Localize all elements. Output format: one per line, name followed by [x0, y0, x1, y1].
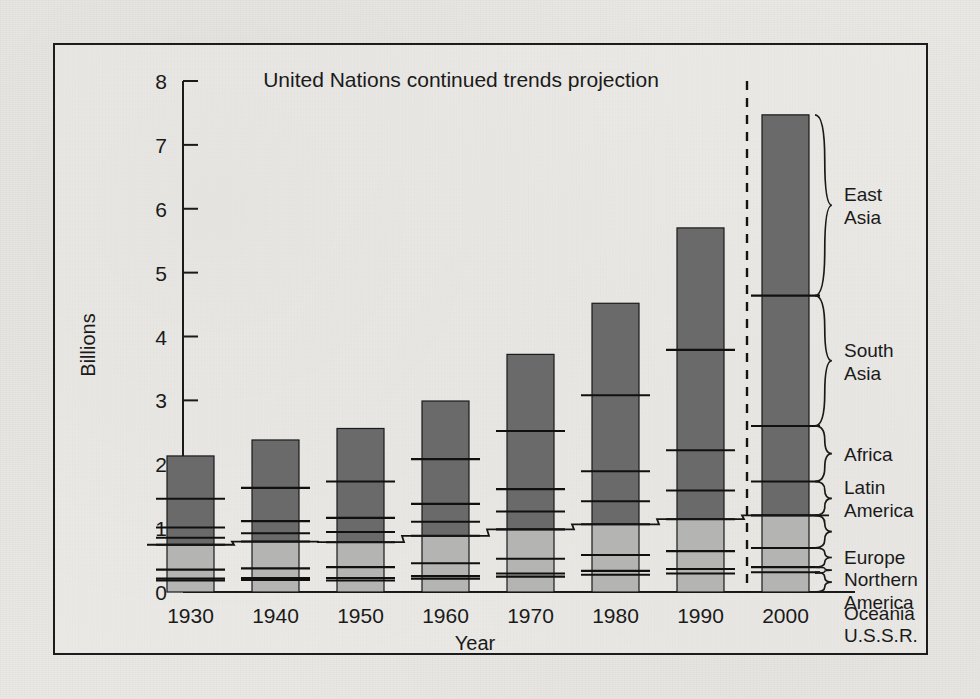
developed-regions-step-line	[147, 515, 829, 544]
bar-1970-dark-stack	[507, 354, 554, 529]
region-label-eastasia-line2: Asia	[844, 207, 881, 228]
x-tick-label-1970: 1970	[507, 604, 554, 627]
y-tick-label-5: 5	[155, 262, 167, 285]
x-axis: 19301940195019601970198019902000	[167, 592, 855, 627]
y-tick-label-6: 6	[155, 198, 167, 221]
bar-1970	[496, 354, 565, 592]
bar-1940-dark-stack	[252, 440, 299, 542]
y-axis-title: Billions	[77, 313, 99, 376]
region-label-latinamerica-line1: Latin	[844, 477, 885, 498]
chart-title: United Nations continued trends projecti…	[263, 68, 659, 91]
brace-northernamerica	[815, 548, 832, 567]
x-tick-label-1960: 1960	[422, 604, 469, 627]
region-label-ussr: U.S.S.R.	[844, 625, 918, 646]
bar-1940-light-stack	[252, 542, 299, 592]
bar-1950	[326, 428, 395, 592]
region-label-latinamerica-line2: America	[844, 500, 914, 521]
x-tick-label-2000: 2000	[762, 604, 809, 627]
figure-frame: United Nations continued trends projecti…	[53, 43, 928, 655]
region-label-oceania: Oceania	[844, 603, 915, 624]
brace-group-southasia: SouthAsia	[815, 296, 894, 426]
bar-1980	[581, 303, 650, 592]
y-tick-label-0: 0	[155, 581, 167, 604]
bar-2000	[751, 115, 820, 592]
bar-1990-light-stack	[677, 519, 724, 592]
population-stacked-bar-chart: United Nations continued trends projecti…	[55, 45, 926, 653]
x-tick-label-1990: 1990	[677, 604, 724, 627]
bar-1950-dark-stack	[337, 428, 384, 542]
bar-1960-dark-stack	[422, 401, 469, 536]
region-label-europe: Europe	[844, 547, 905, 568]
bar-2000-dark-stack	[762, 115, 809, 515]
brace-southasia	[815, 296, 832, 426]
y-tick-label-2: 2	[155, 453, 167, 476]
region-label-eastasia-line1: East	[844, 184, 883, 205]
bar-1940	[241, 440, 310, 592]
brace-europe	[815, 515, 832, 548]
x-tick-label-1980: 1980	[592, 604, 639, 627]
bars-layer	[156, 115, 820, 592]
y-tick-label-8: 8	[155, 70, 167, 93]
bar-1980-dark-stack	[592, 303, 639, 524]
bar-1990	[666, 228, 735, 592]
brace-group-europe: Europe	[815, 515, 905, 568]
brace-eastasia	[815, 115, 832, 296]
region-label-africa: Africa	[844, 444, 893, 465]
x-tick-label-1950: 1950	[337, 604, 384, 627]
brace-ussr	[815, 572, 832, 592]
y-tick-label-3: 3	[155, 389, 167, 412]
brace-africa	[815, 426, 832, 482]
bar-1930-dark-stack	[167, 456, 214, 545]
brace-group-africa: Africa	[815, 426, 893, 482]
x-tick-label-1940: 1940	[252, 604, 299, 627]
brace-latinamerica	[815, 481, 832, 515]
brace-group-latinamerica: LatinAmerica	[815, 477, 914, 521]
x-tick-label-1930: 1930	[167, 604, 214, 627]
y-tick-label-4: 4	[155, 326, 167, 349]
brace-group-eastasia: EastAsia	[815, 115, 883, 296]
bar-1960	[411, 401, 480, 592]
region-label-northernamerica-line1: Northern	[844, 569, 918, 590]
region-label-southasia-line1: South	[844, 340, 894, 361]
x-axis-title: Year	[455, 632, 496, 653]
bar-1990-dark-stack	[677, 228, 724, 519]
bar-1930-light-stack	[167, 545, 214, 592]
y-tick-label-7: 7	[155, 134, 167, 157]
bar-1970-light-stack	[507, 529, 554, 592]
region-brace-legend: EastAsiaSouthAsiaAfricaLatinAmericaEurop…	[815, 115, 918, 646]
bar-1980-light-stack	[592, 524, 639, 592]
region-label-southasia-line2: Asia	[844, 363, 881, 384]
bar-2000-light-stack	[762, 515, 809, 592]
